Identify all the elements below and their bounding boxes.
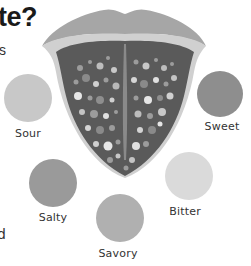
taste-circle-savory: [96, 194, 144, 242]
taste-circle-sour: [4, 74, 52, 122]
taste-label-savory: Savory: [98, 247, 137, 260]
taste-label-bitter: Bitter: [169, 205, 201, 218]
taste-label-salty: Salty: [39, 211, 68, 224]
taste-circle-salty: [29, 159, 77, 207]
taste-label-sweet: Sweet: [205, 120, 240, 133]
taste-label-sour: Sour: [15, 127, 41, 140]
taste-circle-sweet: [197, 71, 243, 117]
taste-circle-bitter: [165, 152, 213, 200]
